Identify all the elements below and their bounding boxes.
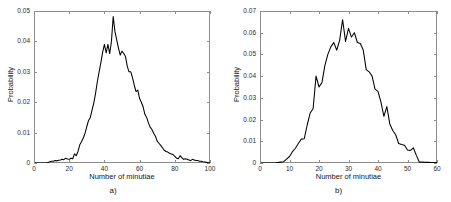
x-tick-top [104,11,105,14]
y-tick [260,33,263,34]
x-tick [378,160,379,163]
y-tick-right [207,11,210,12]
y-tick-label: 0.03 [226,94,256,102]
plot-area-b [260,11,437,163]
y-tick-label: 0.05 [226,50,256,58]
probability-curve-b [260,11,437,163]
y-tick-right [207,102,210,103]
y-tick [260,98,263,99]
x-tick [290,160,291,163]
x-tick-top [378,11,379,14]
plot-area-a [34,11,210,163]
x-tick-top [408,11,409,14]
y-tick-label: 0.02 [226,116,256,124]
x-axis-title-a: Number of minutiae [34,172,210,181]
x-tick-top [319,11,320,14]
probability-curve-a [34,11,210,163]
x-tick [104,160,105,163]
y-tick [260,141,263,142]
y-tick [34,102,37,103]
x-tick [408,160,409,163]
x-tick [349,160,350,163]
x-tick [319,160,320,163]
caption-sliver [0,194,451,202]
y-tick-right [207,72,210,73]
x-tick-top [210,11,211,14]
y-tick [34,11,37,12]
x-tick-top [140,11,141,14]
y-tick [260,11,263,12]
y-tick-right [434,98,437,99]
x-tick-top [437,11,438,14]
y-tick-right [434,120,437,121]
y-tick-right [207,163,210,164]
y-tick-label: 0.01 [0,129,30,137]
y-tick-label: 0.07 [226,7,256,15]
y-tick [34,133,37,134]
y-tick-label: 0.05 [0,7,30,15]
y-tick [260,54,263,55]
y-tick-right [434,54,437,55]
y-tick-label: 0.04 [226,72,256,80]
y-tick-label: 0.04 [0,37,30,45]
x-tick-top [290,11,291,14]
y-tick-right [434,33,437,34]
x-tick [140,160,141,163]
x-tick-top [69,11,70,14]
x-tick-top [175,11,176,14]
x-tick [175,160,176,163]
x-tick [210,160,211,163]
y-tick-label: 0.03 [0,68,30,76]
y-tick-label: 0.02 [0,98,30,106]
y-tick-right [434,141,437,142]
y-axis-title-a: Probability [6,55,15,115]
y-axis-title-b: Probability [232,55,241,115]
y-tick [34,41,37,42]
y-tick-right [207,41,210,42]
y-tick [260,120,263,121]
y-tick-right [434,11,437,12]
x-tick [437,160,438,163]
y-tick-label: 0 [226,159,256,167]
x-tick-top [349,11,350,14]
figure-two-histograms: 020406080100 00.010.020.030.040.05 Numbe… [0,0,451,202]
y-tick [260,76,263,77]
y-tick [260,163,263,164]
y-tick-right [434,76,437,77]
y-tick-label: 0.01 [226,137,256,145]
panel-a: 020406080100 00.010.020.030.040.05 Numbe… [0,0,226,185]
y-tick-right [207,133,210,134]
y-tick-label: 0.06 [226,29,256,37]
x-tick [69,160,70,163]
panel-b: 0102030405060 00.010.020.030.040.050.060… [226,0,451,185]
y-tick-label: 0 [0,159,30,167]
y-tick [34,72,37,73]
y-tick-right [434,163,437,164]
y-tick [34,163,37,164]
x-axis-title-b: Number of minutiae [260,172,437,181]
